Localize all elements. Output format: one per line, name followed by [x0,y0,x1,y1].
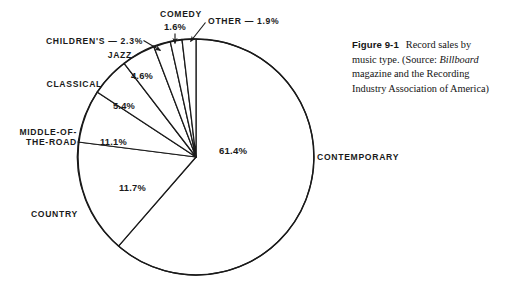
value-contemporary: 61.4% [219,145,247,156]
label-middle-of-the-road-line2: THE-ROAD [26,137,77,147]
value-middle-of-the-road: 11.1% [100,137,127,148]
value-country: 11.7% [119,183,146,194]
caption-source-italic: Billboard [440,54,479,65]
label-classical: CLASSICAL [24,79,102,89]
pie-slices [77,39,314,275]
label-comedy: COMEDY [145,9,217,19]
label-other: OTHER — 1.9% [208,16,279,26]
label-middle-of-the-road-line1: MIDDLE-OF- [19,127,77,137]
label-contemporary: CONTEMPORARY [317,152,399,162]
label-middle-of-the-road: MIDDLE-OF- THE-ROAD [3,127,77,148]
label-country: COUNTRY [8,209,78,219]
figure-container: COMEDY 1.6% OTHER — 1.9% CHILDREN'S — 2.… [0,0,505,287]
label-jazz: JAZZ [60,50,132,60]
label-childrens: CHILDREN'S — 2.3% [45,36,143,46]
value-jazz: 4.6% [131,71,153,82]
label-comedy-value: 1.6% [148,22,202,33]
caption-text-part2: magazine and the Recording Industry Asso… [352,68,489,94]
value-classical: 5.4% [113,101,135,112]
figure-number: Figure 9-1 [352,39,399,50]
figure-caption: Figure 9-1Record sales by music type. (S… [352,38,494,96]
